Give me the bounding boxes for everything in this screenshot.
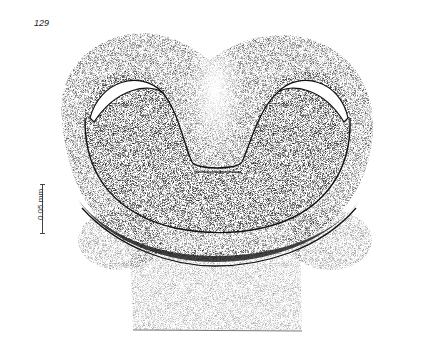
stalk-base	[130, 250, 302, 330]
central-cleft	[185, 40, 245, 170]
stippled-specimen-illustration	[0, 0, 421, 362]
